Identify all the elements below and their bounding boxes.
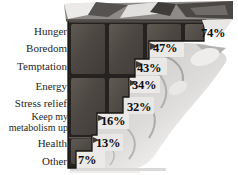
category-label: Energy [0, 81, 67, 92]
chocolate-survey-chart: Hunger Boredom Temptation Energy Stress … [0, 0, 238, 175]
category-label: Temptation [0, 61, 67, 72]
value-label: 32% [127, 101, 151, 114]
category-label: Hunger [0, 26, 67, 37]
value-label: 34% [132, 79, 156, 92]
value-label: 13% [96, 137, 120, 150]
value-label: 16% [101, 115, 125, 128]
value-label: 47% [153, 42, 177, 55]
category-label: Keep my metabolism up [0, 112, 68, 133]
category-label: Health [0, 138, 67, 149]
bar-drop-shadow [70, 168, 166, 173]
value-label: 43% [137, 62, 161, 75]
category-label: Boredom [0, 43, 67, 54]
value-label: 7% [78, 154, 96, 167]
category-label: Stress relief [0, 98, 67, 109]
category-label: Other [0, 156, 67, 167]
value-label: 74% [201, 27, 225, 40]
